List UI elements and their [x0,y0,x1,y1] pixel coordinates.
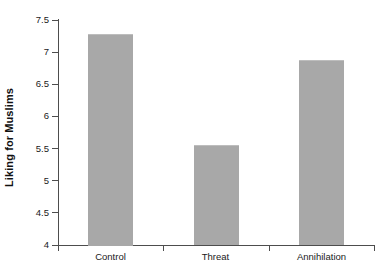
y-tick-mark [52,212,58,213]
y-tick-mark [52,84,58,85]
y-tick-label: 6 [9,111,49,121]
x-tick-mark [269,245,270,251]
y-axis-title: Liking for Muslims [0,0,18,275]
bar-annihilation [299,60,344,245]
y-tick-label: 4.5 [9,208,49,218]
bar-chart: Liking for Muslims 44.555.566.577.5 Cont… [0,0,390,275]
bar-control [88,34,133,246]
x-tick-label: Annihilation [269,252,374,262]
y-tick-mark [52,52,58,53]
bar-threat [194,145,239,245]
y-tick-label: 6.5 [9,79,49,89]
y-tick-label: 7.5 [9,15,49,25]
y-tick-mark [52,148,58,149]
x-tick-mark [163,245,164,251]
y-axis-line [58,19,59,246]
x-tick-label: Threat [163,252,268,262]
y-tick-label: 7 [9,47,49,57]
x-tick-mark [374,245,375,251]
y-tick-mark [52,20,58,21]
y-tick-label: 4 [9,240,49,250]
y-tick-mark [52,116,58,117]
y-tick-mark [52,180,58,181]
x-tick-label: Control [58,252,163,262]
y-tick-label: 5 [9,176,49,186]
x-tick-mark [58,245,59,251]
y-tick-label: 5.5 [9,144,49,154]
